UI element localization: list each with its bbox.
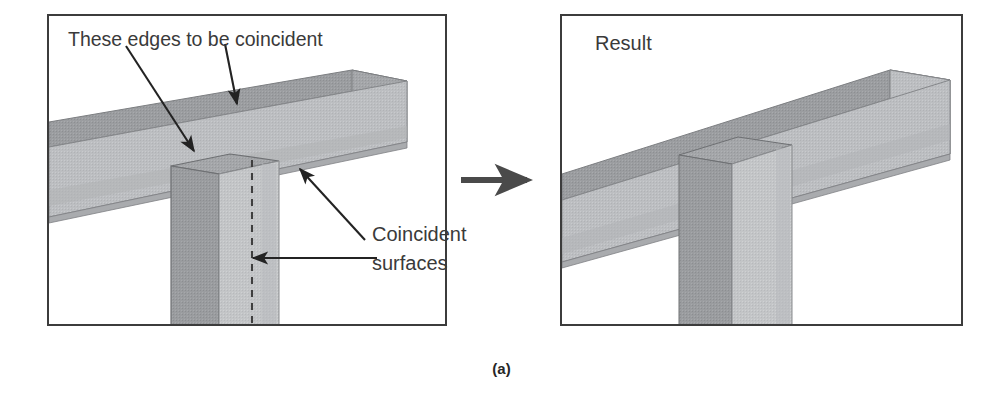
post-front-shading [262, 164, 276, 326]
surfaces-leader-upper [300, 169, 365, 240]
post-left-face [171, 166, 219, 326]
arrow-right-icon [455, 160, 555, 200]
panel-before-state: These edges to be coincident Coincident … [47, 14, 447, 326]
panel-result-state: Result [560, 14, 963, 326]
label-result: Result [595, 32, 652, 55]
label-coincident-surfaces: Coincident surfaces [372, 220, 497, 278]
before-state-illustration [47, 14, 447, 326]
result-state-illustration [560, 14, 963, 326]
label-these-edges-coincident: These edges to be coincident [68, 28, 323, 51]
figure-stage: These edges to be coincident Coincident … [0, 0, 1003, 405]
figure-caption: (a) [0, 360, 1003, 377]
